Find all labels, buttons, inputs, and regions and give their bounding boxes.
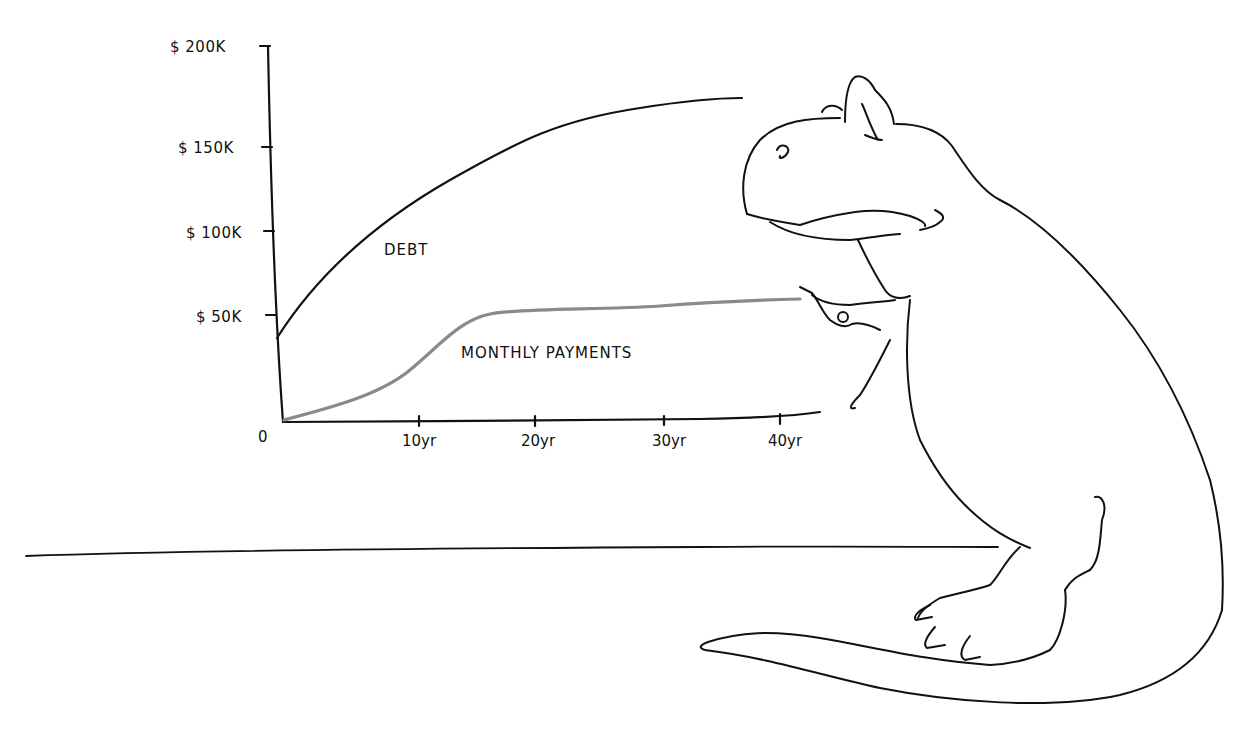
x-label-20yr: 20yr (521, 432, 556, 450)
floor-line (26, 547, 998, 556)
debt-curve (277, 98, 742, 338)
x-label-30yr: 30yr (652, 432, 687, 450)
x-axis (283, 412, 820, 422)
y-axis (268, 46, 283, 422)
payments-label: MONTHLY PAYMENTS (461, 344, 632, 362)
y-label-50k: $ 50K (196, 308, 242, 326)
y-label-150k: $ 150K (178, 139, 234, 157)
y-label-100k: $ 100K (186, 224, 242, 242)
y-label-0: 0 (258, 428, 268, 446)
x-label-40yr: 40yr (768, 432, 803, 450)
dinosaur-illustration (701, 76, 1223, 703)
x-label-10yr: 10yr (402, 432, 437, 450)
debt-label: DEBT (384, 241, 428, 259)
hand-drawn-chart: $ 200K $ 150K $ 100K $ 50K 0 10yr 20yr 3… (0, 0, 1251, 737)
y-label-200k: $ 200K (170, 38, 226, 56)
comic-panel: $ 200K $ 150K $ 100K $ 50K 0 10yr 20yr 3… (0, 0, 1251, 737)
